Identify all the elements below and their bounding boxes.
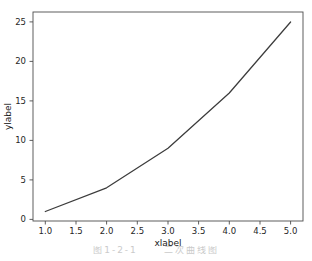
x-tick-label: 4.5 <box>253 226 267 236</box>
matplotlib-figure: 1.0 1.5 2.0 2.5 3.0 3.5 4.0 4.5 5.0 0 5 … <box>0 0 312 261</box>
line-chart: 1.0 1.5 2.0 2.5 3.0 3.5 4.0 4.5 5.0 0 5 … <box>0 0 312 261</box>
x-tick-label: 2.0 <box>100 226 114 236</box>
y-tick-label: 0 <box>21 214 26 224</box>
x-tick-label: 1.5 <box>69 226 83 236</box>
figure-caption: 图1-2-1二次曲线图 <box>0 246 312 261</box>
caption-left-fragment: 图1-2-1 <box>93 246 138 255</box>
x-tick-label: 2.5 <box>131 226 145 236</box>
x-tick-label: 3.5 <box>192 226 206 236</box>
figure-caption-text: 图1-2-1二次曲线图 <box>93 246 219 256</box>
y-tick-label: 25 <box>15 17 26 27</box>
x-tick-label: 5.0 <box>284 226 298 236</box>
y-tick-label: 5 <box>21 175 26 185</box>
x-tick-label: 4.0 <box>223 226 237 236</box>
y-tick-label: 20 <box>15 56 26 66</box>
plot-area-frame <box>33 12 303 221</box>
x-tick-label: 1.0 <box>39 226 53 236</box>
caption-right-fragment: 二次曲线图 <box>164 246 219 255</box>
x-tick-label: 3.0 <box>161 226 175 236</box>
y-tick-label: 10 <box>15 135 26 145</box>
y-axis-title: ylabel <box>3 103 13 130</box>
y-tick-label: 15 <box>15 96 26 106</box>
x-tick-labels: 1.0 1.5 2.0 2.5 3.0 3.5 4.0 4.5 5.0 <box>39 226 298 236</box>
